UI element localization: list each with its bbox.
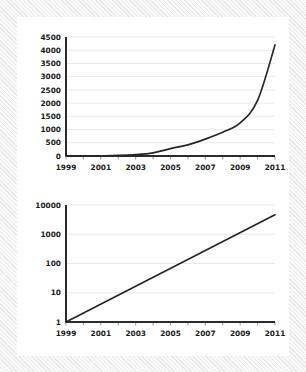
x-tick-label: 2003: [125, 163, 146, 172]
log-scale-chart: 110100100010000 199920012003200520072009…: [17, 189, 289, 356]
y-tick-label: 10: [51, 288, 61, 297]
x-tick-label: 1999: [56, 329, 77, 338]
linear-scale-chart: 050010001500200025003000350040004500 199…: [17, 17, 289, 189]
x-tick-label: 1999: [56, 163, 77, 172]
log-straight-line: [66, 215, 275, 322]
x-tick-label: 2007: [195, 329, 216, 338]
y-tick-label: 0: [56, 152, 61, 161]
y-tick-label: 1: [56, 318, 61, 327]
x-axis-labels-group: 1999200120032005200720092011: [56, 163, 286, 172]
y-tick-label: 1000: [40, 125, 61, 134]
y-tick-label: 1500: [40, 112, 61, 121]
y-tick-label: 10000: [35, 201, 61, 210]
x-tick-label: 2001: [91, 163, 112, 172]
linear-chart-svg: 050010001500200025003000350040004500 199…: [17, 17, 289, 189]
x-tick-label: 2005: [160, 163, 181, 172]
y-tick-label: 3000: [40, 72, 61, 81]
x-tick-label: 2011: [265, 163, 286, 172]
x-tick-label: 2009: [230, 329, 251, 338]
exponential-curve: [66, 45, 275, 156]
x-axis-labels-group: 1999200120032005200720092011: [56, 329, 286, 338]
x-tick-label: 2005: [160, 329, 181, 338]
y-tick-label: 3500: [40, 59, 61, 68]
x-tick-label: 2009: [230, 163, 251, 172]
x-tick-label: 2001: [91, 329, 112, 338]
x-tick-label: 2011: [265, 329, 286, 338]
y-tick-label: 1000: [40, 230, 61, 239]
y-tick-label: 4000: [40, 46, 61, 55]
gridlines-group: [66, 37, 275, 143]
y-tick-label: 2500: [40, 86, 61, 95]
y-axis-labels-group: 050010001500200025003000350040004500: [40, 33, 61, 161]
figure-panel: 050010001500200025003000350040004500 199…: [17, 17, 289, 356]
y-axis-labels-group: 110100100010000: [35, 201, 61, 327]
y-tick-label: 100: [46, 259, 61, 268]
y-tick-label: 2000: [40, 99, 61, 108]
log-chart-svg: 110100100010000 199920012003200520072009…: [17, 189, 289, 356]
x-tick-label: 2007: [195, 163, 216, 172]
gridlines-group: [66, 205, 275, 293]
y-tick-label: 500: [46, 138, 61, 147]
x-tick-label: 2003: [125, 329, 146, 338]
y-tick-label: 4500: [40, 33, 61, 42]
